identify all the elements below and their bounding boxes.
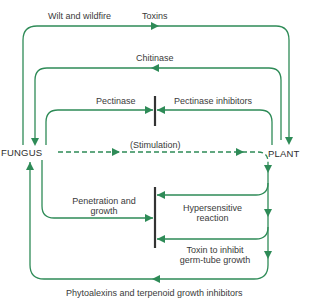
stimulation-label: (Stimulation) xyxy=(130,140,181,150)
fungus-plant-interaction-diagram xyxy=(0,0,311,306)
hypersensitive-arrow-path xyxy=(157,183,268,195)
toxin-inhibit-label: Toxin to inhibit germ-tube growth xyxy=(170,245,260,265)
hypersensitive-label: Hypersensitive reaction xyxy=(170,203,255,223)
chitinase-label: Chitinase xyxy=(136,53,174,63)
toxin-inhibit-arrow-path xyxy=(157,227,268,239)
toxins-label: Toxins xyxy=(142,11,168,21)
wilt-label: Wilt and wildfire xyxy=(48,11,111,21)
phytoalexins-label: Phytoalexins and terpenoid growth inhibi… xyxy=(66,288,243,298)
pectinase-label: Pectinase xyxy=(96,96,136,106)
penetration-label: Penetration and growth xyxy=(60,196,148,216)
fungus-node: FUNGUS xyxy=(1,147,42,158)
pectinase-inhibitors-label: Pectinase inhibitors xyxy=(174,96,252,106)
toxins-arrow-path xyxy=(23,26,289,145)
plant-node: PLANT xyxy=(268,148,300,159)
